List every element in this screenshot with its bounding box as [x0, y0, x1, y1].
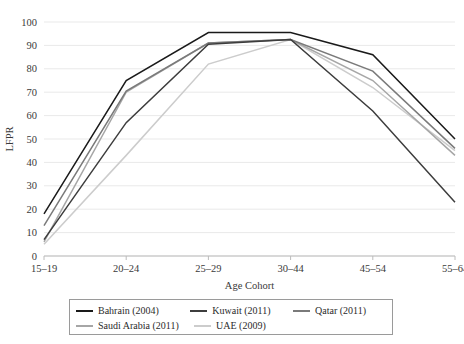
y-tick-label: 80	[27, 63, 38, 74]
chart-legend: Bahrain (2004) Kuwait (2011) Qatar (2011…	[69, 299, 393, 335]
legend-swatch-uae	[194, 325, 211, 327]
y-tick-label: 70	[27, 87, 38, 98]
legend-item-bahrain: Bahrain (2004)	[76, 305, 190, 317]
legend-swatch-qatar	[293, 310, 310, 312]
legend-label-kuwait: Kuwait (2011)	[212, 305, 270, 317]
legend-label-bahrain: Bahrain (2004)	[98, 305, 159, 317]
legend-item-kuwait: Kuwait (2011)	[190, 305, 293, 317]
x-tick-label: 30–44	[277, 263, 304, 274]
x-tick-label: 25–29	[195, 263, 221, 274]
legend-row-2: Saudi Arabia (2011) UAE (2009)	[76, 318, 386, 333]
y-tick-label: 20	[27, 204, 38, 215]
y-tick-label: 100	[21, 17, 37, 28]
y-tick-label: 50	[27, 134, 38, 145]
x-tick-label: 20–24	[113, 263, 140, 274]
series-line	[44, 40, 455, 226]
y-tick-label: 40	[27, 157, 38, 168]
x-tick-label: 15–19	[31, 263, 57, 274]
legend-row-1: Bahrain (2004) Kuwait (2011) Qatar (2011…	[76, 303, 386, 318]
line-chart: 010203040506070809010015–1920–2425–2930–…	[0, 0, 464, 290]
legend-item-saudi-arabia: Saudi Arabia (2011)	[76, 320, 194, 332]
legend-item-qatar: Qatar (2011)	[293, 305, 386, 317]
x-tick-label: 45–54	[360, 263, 387, 274]
series-line	[44, 33, 455, 214]
series-line	[44, 40, 455, 245]
legend-item-uae: UAE (2009)	[194, 320, 300, 332]
x-axis-title: Age Cohort	[225, 280, 274, 291]
legend-swatch-saudi-arabia	[76, 325, 93, 327]
plot-area: 010203040506070809010015–1920–2425–2930–…	[0, 0, 464, 290]
y-axis-title: LFPR	[4, 126, 15, 151]
y-tick-label: 10	[27, 227, 38, 238]
legend-label-uae: UAE (2009)	[216, 320, 266, 332]
chart-container: 010203040506070809010015–1920–2425–2930–…	[0, 0, 464, 344]
y-tick-label: 90	[27, 40, 38, 51]
series-line	[44, 40, 455, 242]
legend-label-saudi-arabia: Saudi Arabia (2011)	[98, 320, 179, 332]
legend-swatch-kuwait	[190, 310, 207, 312]
legend-swatch-bahrain	[76, 310, 93, 312]
y-tick-label: 0	[32, 251, 37, 262]
y-tick-label: 30	[27, 180, 38, 191]
x-tick-label: 55–64	[442, 263, 464, 274]
y-tick-label: 60	[27, 110, 38, 121]
legend-label-qatar: Qatar (2011)	[315, 305, 366, 317]
